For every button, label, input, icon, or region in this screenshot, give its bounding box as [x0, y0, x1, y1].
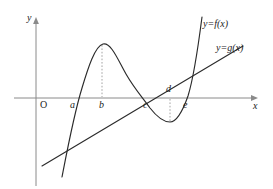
curve-f-path	[62, 17, 202, 177]
curve-label-f: y=f(x)	[203, 19, 228, 29]
origin-label: O	[40, 100, 47, 110]
y-axis-label: y	[27, 13, 31, 23]
curve-label-g: y=g(x)	[216, 43, 243, 53]
x-axis-label: x	[253, 101, 257, 111]
tick-label-a: a	[70, 100, 75, 110]
tick-label-d: d	[166, 84, 171, 94]
graph-svg	[0, 0, 273, 189]
tick-label-e: e	[183, 100, 187, 110]
tick-label-b: b	[99, 100, 104, 110]
tick-label-c: c	[143, 100, 147, 110]
figure-canvas: y x O a b c d e y=f(x) y=g(x)	[0, 0, 273, 189]
y-axis-arrowhead	[33, 17, 39, 24]
